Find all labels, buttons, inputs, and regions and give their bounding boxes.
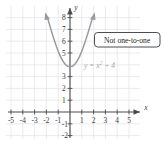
x-tick-label: -4 xyxy=(20,116,26,125)
x-tick-label: 5 xyxy=(127,116,131,125)
x-tick-label: -3 xyxy=(32,116,38,125)
y-tick-label: 6 xyxy=(62,37,66,46)
graph-figure: -5 -4 -3 -2 -1 1 2 3 4 5 8 7 6 5 3 2 1 -… xyxy=(0,0,164,145)
y-tick-label: 2 xyxy=(62,84,66,93)
y-tick-label: -2 xyxy=(62,131,68,140)
y-axis xyxy=(67,8,73,138)
x-tick-label: 3 xyxy=(104,116,108,125)
equation-lhs: y = x xyxy=(83,61,100,70)
y-tick-label: 7 xyxy=(62,25,66,34)
callout-not-one-to-one: Not one-to-one xyxy=(95,33,161,48)
x-tick-label: 2 xyxy=(92,116,96,125)
y-tick-label: 5 xyxy=(62,49,66,58)
curve-equation-label: y = x2 + 4 xyxy=(83,60,115,70)
x-tick-label: 4 xyxy=(115,116,119,125)
x-tick-label: 1 xyxy=(80,116,84,125)
grid-lines xyxy=(6,6,140,139)
x-tick-label: -5 xyxy=(8,116,14,125)
x-axis xyxy=(8,109,140,115)
equation-rhs: + 4 xyxy=(104,61,115,70)
y-tick-label: 1 xyxy=(62,96,66,105)
y-tick-label: 8 xyxy=(62,13,66,22)
x-tick-label: -1 xyxy=(55,116,61,125)
y-tick-label: -1 xyxy=(62,120,68,129)
y-tick-label: 3 xyxy=(62,72,66,81)
callout-label: Not one-to-one xyxy=(104,36,151,45)
x-tick-label: -2 xyxy=(43,116,49,125)
y-axis-label: y xyxy=(73,3,78,12)
x-axis-label: x xyxy=(143,103,148,112)
